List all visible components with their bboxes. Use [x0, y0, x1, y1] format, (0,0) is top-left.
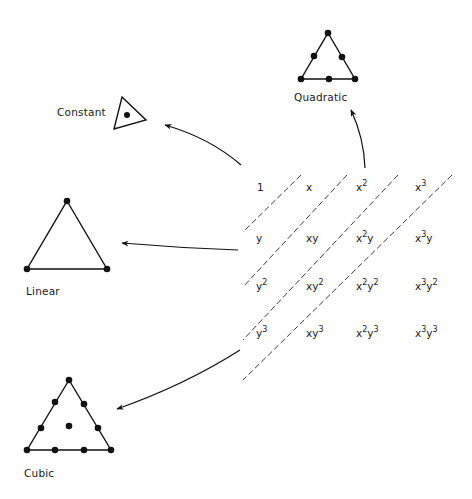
term-x2y: x2y [356, 232, 374, 244]
term-x: x [306, 181, 312, 193]
arrow-to-quadratic [351, 110, 365, 168]
term-x3: x3 [415, 181, 426, 193]
term-xy: xy [306, 232, 318, 244]
diagonal-separator-3 [243, 175, 398, 340]
term-y3: y3 [256, 327, 267, 339]
arrow-to-cubic [117, 350, 240, 409]
term-1: 1 [257, 181, 264, 193]
term-xy2: xy2 [306, 280, 324, 292]
arrow-to-constant [165, 125, 241, 165]
term-x3y: x3y [415, 232, 433, 244]
linear-element [24, 198, 111, 273]
label-linear: Linear [26, 285, 60, 297]
label-cubic: Cubic [24, 467, 54, 479]
term-x2y2: x2y2 [356, 280, 379, 292]
diagonal-separator-1 [243, 175, 301, 232]
term-y2: y2 [256, 280, 267, 292]
term-x2: x2 [356, 181, 367, 193]
cubic-element [24, 377, 115, 454]
label-constant: Constant [57, 106, 106, 118]
term-x3y2: x3y2 [415, 280, 438, 292]
term-x2y3: x2y3 [356, 327, 379, 339]
term-x3y3: x3y3 [415, 327, 438, 339]
term-y: y [256, 232, 262, 244]
quadratic-element [298, 30, 359, 83]
diagram-canvas [0, 0, 472, 499]
node-dot [124, 112, 130, 118]
term-xy3: xy3 [306, 327, 324, 339]
arrow-to-linear [122, 243, 238, 250]
label-quadratic: Quadratic [294, 91, 347, 103]
constant-element [114, 97, 146, 129]
